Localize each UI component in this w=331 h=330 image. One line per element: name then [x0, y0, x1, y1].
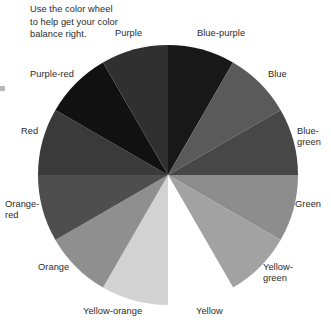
wheel-label-green: Green	[295, 199, 321, 210]
color-wheel-svg	[37, 44, 299, 306]
wheel-label-yellow: Yellow	[196, 306, 223, 317]
wheel-label-purple: Purple	[115, 28, 142, 39]
wheel-label-orange-red: Orange- red	[5, 199, 39, 221]
color-wheel	[37, 44, 299, 306]
wheel-label-blue-purple: Blue-purple	[197, 28, 245, 39]
wheel-label-yellow-green: Yellow- green	[263, 262, 293, 284]
wheel-label-orange: Orange	[38, 262, 69, 273]
intro-caption: Use the color wheel to help get your col…	[30, 3, 180, 41]
wheel-label-blue-green: Blue- green	[297, 126, 321, 148]
wheel-label-red: Red	[21, 126, 38, 137]
color-wheel-figure: Use the color wheel to help get your col…	[0, 0, 331, 330]
wheel-label-yellow-orange: Yellow-orange	[83, 306, 142, 317]
margin-tick-mark	[0, 86, 5, 91]
wheel-label-purple-red: Purple-red	[30, 69, 74, 80]
wheel-label-blue: Blue	[268, 69, 287, 80]
